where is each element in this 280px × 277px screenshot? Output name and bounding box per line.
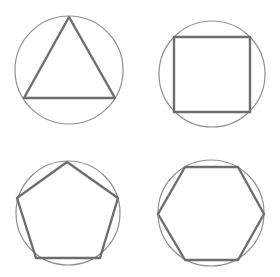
square-shape: [174, 37, 250, 112]
panel-pentagon: [16, 161, 120, 265]
circumscribed-circle: [15, 16, 123, 124]
hexagon-shape: [158, 167, 264, 260]
inscribed-polygons-diagram: [0, 0, 280, 277]
panel-hexagon: [158, 160, 264, 266]
pentagon-shape: [17, 162, 118, 258]
circumscribed-circle: [158, 160, 264, 266]
panel-square: [159, 21, 265, 127]
triangle-shape: [24, 17, 115, 98]
circumscribed-circle: [16, 161, 120, 265]
panel-triangle: [15, 16, 123, 124]
